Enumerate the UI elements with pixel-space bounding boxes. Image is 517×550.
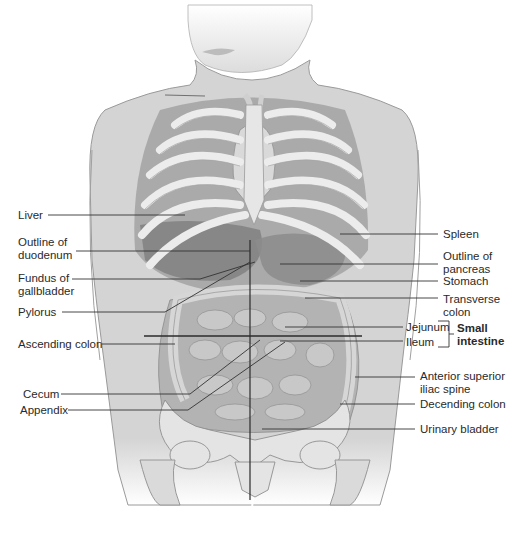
torso-illustration: [0, 0, 517, 550]
label-urinary-bladder: Urinary bladder: [420, 423, 499, 436]
label-descending-colon: Decending colon: [420, 398, 506, 411]
label-pylorus: Pylorus: [18, 306, 56, 319]
anatomy-figure: Liver Outline of duodenum Fundus of gall…: [0, 0, 517, 550]
label-transverse-colon: Transverse colon: [443, 293, 500, 319]
label-spleen: Spleen: [443, 228, 479, 241]
intestines: [159, 289, 359, 432]
label-jejunum: Jejunum: [406, 321, 449, 334]
label-small-intestine: Small intestine: [457, 322, 504, 348]
label-appendix: Appendix: [20, 404, 68, 417]
label-anterior-superior-iliac-spine: Anterior superior iliac spine: [420, 370, 505, 396]
label-ascending-colon: Ascending colon: [18, 338, 102, 351]
label-cecum: Cecum: [23, 388, 59, 401]
sternum: [244, 105, 264, 225]
label-fundus-of-gallbladder: Fundus of gallbladder: [18, 272, 74, 298]
label-liver: Liver: [18, 209, 43, 222]
label-ileum: Ileum: [406, 336, 434, 349]
label-outline-of-duodenum: Outline of duodenum: [18, 236, 72, 262]
label-stomach: Stomach: [443, 275, 488, 288]
label-outline-of-pancreas: Outline of pancreas: [443, 250, 492, 276]
